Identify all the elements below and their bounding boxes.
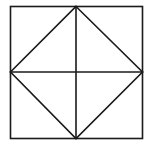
diagram-canvas [0, 0, 150, 150]
geometry-figure [0, 0, 150, 150]
